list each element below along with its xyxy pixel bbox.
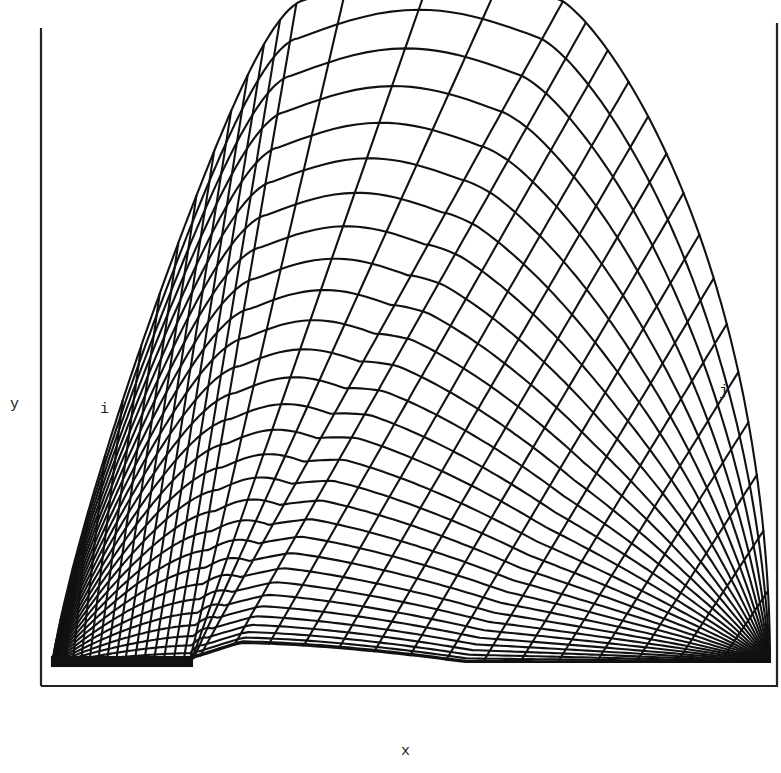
grid-line <box>235 23 586 645</box>
grid-line <box>269 50 608 643</box>
i-direction-label: i <box>100 401 109 418</box>
curvilinear-mesh <box>52 0 770 666</box>
grid-line <box>374 154 666 652</box>
grid-line <box>52 48 770 665</box>
y-axis-label: y <box>10 396 19 413</box>
clustered-cells <box>52 657 192 666</box>
j-direction-label: j <box>719 383 728 400</box>
grid-line <box>446 235 699 660</box>
x-axis-label: x <box>401 743 410 760</box>
grid-line <box>134 151 214 665</box>
grid-diagram <box>0 0 781 773</box>
